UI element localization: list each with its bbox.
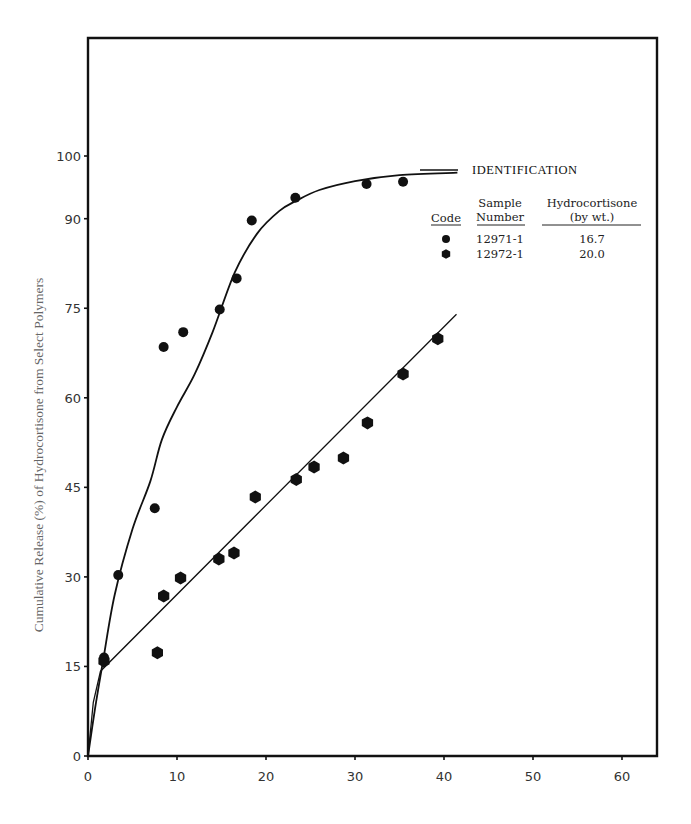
legend-title: IDENTIFICATION: [472, 163, 578, 177]
legend-hydro-1: 16.7: [579, 232, 605, 246]
circle-marker-icon: [290, 193, 300, 203]
hexagon-marker-icon: [362, 416, 373, 429]
circle-marker-icon: [159, 342, 169, 352]
hexagon-marker-icon: [397, 367, 408, 380]
hexagon-marker-icon: [228, 547, 239, 560]
legend-col-sample-line2: Number: [476, 210, 525, 224]
y-tick-label: 0: [73, 749, 81, 764]
hexagon-marker-icon: [250, 490, 261, 503]
circle-marker-icon: [113, 570, 123, 580]
circle-marker-icon: [215, 304, 225, 314]
legend-circle-marker-icon: [442, 235, 450, 243]
legend-hexagon-marker-icon: [442, 249, 450, 259]
circle-marker-icon: [150, 503, 160, 513]
circle-marker-icon: [178, 327, 188, 337]
x-tick-label: 0: [84, 769, 92, 784]
hexagon-marker-icon: [291, 473, 302, 486]
y-tick-label: 15: [64, 659, 81, 674]
x-axis: 0102030405060: [84, 756, 630, 784]
circle-marker-icon: [362, 179, 372, 189]
plot-frame: [88, 38, 657, 756]
x-tick-label: 60: [614, 769, 631, 784]
y-tick-label: 100: [56, 149, 81, 164]
fit-curve-12971-1: [88, 173, 457, 756]
fit-curve-12972-1: [88, 314, 457, 756]
chart-canvas: 0102030405060 0153045607590100 Cumulativ…: [0, 0, 691, 824]
data-points: [98, 177, 443, 668]
legend-sample-2: 12972-1: [476, 247, 524, 261]
hexagon-marker-icon: [213, 553, 224, 566]
y-tick-label: 60: [64, 391, 81, 406]
legend: IDENTIFICATION Code Sample Number Hydroc…: [420, 163, 641, 261]
plot-border: [88, 38, 657, 756]
x-tick-label: 30: [347, 769, 364, 784]
hexagon-marker-icon: [308, 461, 319, 474]
legend-col-hydro-line1: Hydrocortisone: [547, 196, 638, 210]
hexagon-marker-icon: [432, 332, 443, 345]
y-tick-label: 90: [64, 212, 81, 227]
y-tick-label: 75: [64, 301, 81, 316]
circle-marker-icon: [398, 177, 408, 187]
legend-hydro-2: 20.0: [579, 247, 605, 261]
legend-col-code: Code: [431, 211, 461, 225]
hexagon-marker-icon: [152, 646, 163, 659]
x-tick-label: 40: [436, 769, 453, 784]
x-tick-label: 10: [169, 769, 186, 784]
legend-col-sample-line1: Sample: [478, 196, 522, 210]
x-tick-label: 50: [525, 769, 542, 784]
fit-curves: [88, 173, 457, 756]
hexagon-marker-icon: [175, 572, 186, 585]
x-tick-label: 20: [258, 769, 275, 784]
legend-col-hydro-line2: (by wt.): [570, 210, 615, 224]
y-tick-label: 30: [64, 570, 81, 585]
circle-marker-icon: [247, 215, 257, 225]
y-axis-label: Cumulative Release (%) of Hydrocortisone…: [31, 278, 46, 632]
legend-sample-1: 12971-1: [476, 232, 524, 246]
circle-marker-icon: [232, 273, 242, 283]
y-axis: 0153045607590100: [56, 149, 88, 764]
hexagon-marker-icon: [338, 452, 349, 465]
y-tick-label: 45: [64, 480, 81, 495]
hexagon-marker-icon: [158, 590, 169, 603]
